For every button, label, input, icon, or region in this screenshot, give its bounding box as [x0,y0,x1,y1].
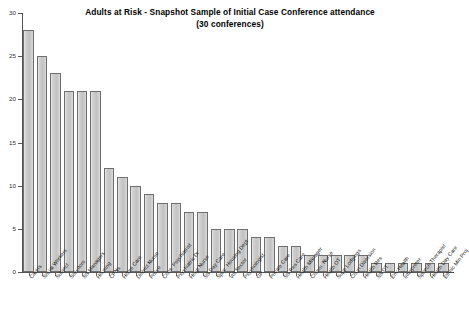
bar [90,91,100,272]
bar [23,30,33,272]
x-axis-labels: CarersSocial WorkersSubjectSolicitorsSS … [0,276,458,334]
bar [37,56,47,272]
bar [50,73,60,272]
bar [104,168,114,272]
bar [117,177,127,272]
bar [64,91,74,272]
bar [77,91,87,272]
bar [157,203,167,272]
bars-layer [22,13,454,272]
bar [264,237,274,272]
y-tick-mark [18,272,22,273]
